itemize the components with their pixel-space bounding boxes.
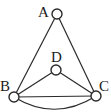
edge-b-c-curved	[14, 96, 96, 109]
node-b	[9, 92, 19, 102]
node-b-label: B	[0, 78, 10, 94]
node-d-label: D	[51, 49, 62, 65]
graph-diagram: A B C D	[0, 0, 111, 112]
edge-b-c-straight	[14, 96, 96, 97]
node-a-label: A	[38, 4, 49, 20]
node-a	[52, 9, 62, 19]
node-c-label: C	[99, 78, 109, 94]
node-d	[51, 65, 61, 75]
edge-b-d	[14, 70, 56, 97]
